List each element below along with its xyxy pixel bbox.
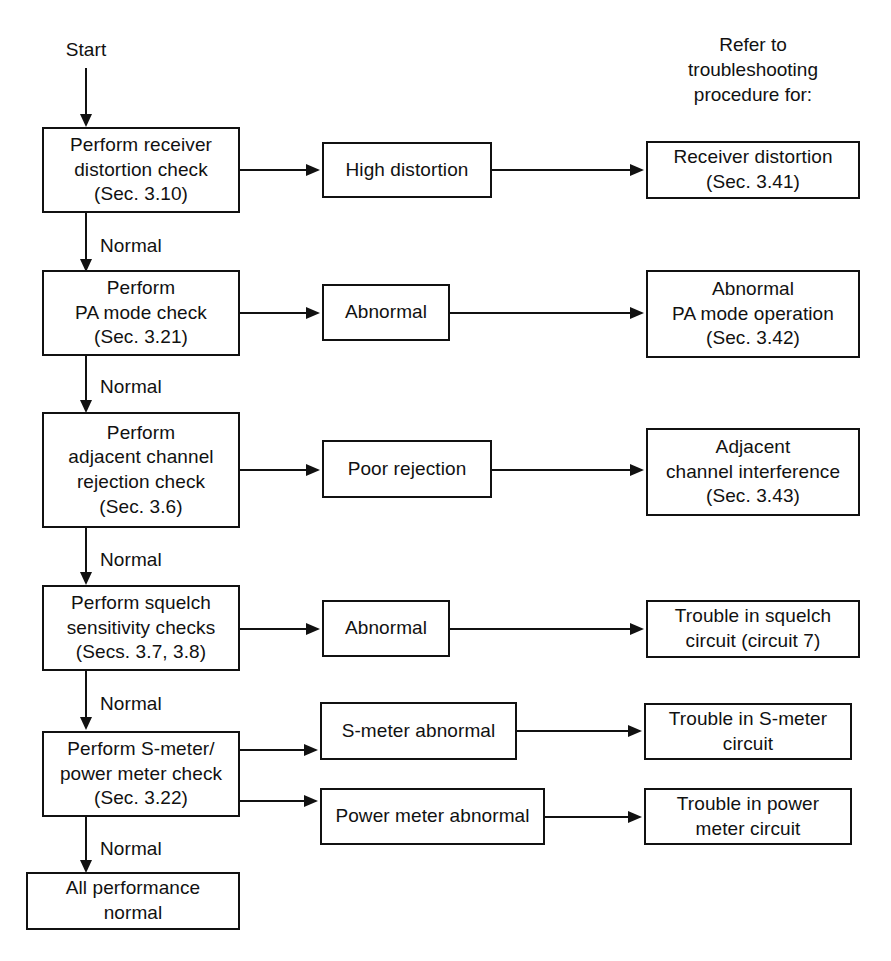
row5-normal-label: Normal bbox=[100, 837, 210, 862]
symptom-box-power-meter-abnormal[interactable]: Power meter abnormal bbox=[320, 788, 545, 845]
row5a-procedure-arrow-head bbox=[628, 725, 642, 737]
symptom-box-poor-rejection[interactable]: Poor rejection bbox=[322, 440, 492, 498]
row3-normal-label: Normal bbox=[100, 548, 210, 573]
row2-normal-line bbox=[85, 356, 87, 404]
check-box-s-meter-power-meter[interactable]: Perform S-meter/ power meter check (Sec.… bbox=[42, 731, 240, 817]
terminal-box-all-performance-normal[interactable]: All performance normal bbox=[26, 872, 240, 930]
row1-fail-line bbox=[240, 169, 308, 171]
row2-procedure-line bbox=[450, 312, 631, 314]
start-label: Start bbox=[36, 38, 136, 63]
row1-fail-arrow-head bbox=[306, 164, 320, 176]
symptom-box-s-meter-abnormal[interactable]: S-meter abnormal bbox=[320, 702, 517, 760]
row3-fail-line bbox=[240, 469, 308, 471]
row3-fail-arrow-head bbox=[306, 464, 320, 476]
row5a-fail-arrow-head bbox=[304, 744, 318, 756]
procedure-box-adjacent-channel-interference[interactable]: Adjacent channel interference (Sec. 3.43… bbox=[646, 428, 860, 516]
row4-fail-arrow-head bbox=[306, 623, 320, 635]
procedure-box-receiver-distortion[interactable]: Receiver distortion (Sec. 3.41) bbox=[646, 141, 860, 199]
row4-normal-arrow-head bbox=[80, 717, 92, 730]
check-box-pa-mode[interactable]: Perform PA mode check (Sec. 3.21) bbox=[42, 270, 240, 356]
check-box-receiver-distortion[interactable]: Perform receiver distortion check (Sec. … bbox=[42, 127, 240, 213]
row3-normal-line bbox=[85, 528, 87, 576]
row4-procedure-arrow-head bbox=[630, 623, 644, 635]
row3-normal-arrow-head bbox=[80, 572, 92, 585]
row1-procedure-line bbox=[492, 169, 631, 171]
row3-procedure-line bbox=[492, 469, 631, 471]
row2-normal-label: Normal bbox=[100, 375, 210, 400]
start-arrow-line bbox=[85, 68, 87, 116]
row2-fail-line bbox=[240, 312, 308, 314]
procedure-box-pa-mode-operation[interactable]: Abnormal PA mode operation (Sec. 3.42) bbox=[646, 270, 860, 358]
procedure-box-power-meter-circuit[interactable]: Trouble in power meter circuit bbox=[644, 788, 852, 845]
row1-normal-line bbox=[85, 213, 87, 261]
row2-procedure-arrow-head bbox=[630, 307, 644, 319]
row1-normal-label: Normal bbox=[100, 234, 210, 259]
procedure-column-header: Refer to troubleshooting procedure for: bbox=[638, 32, 868, 107]
row5b-procedure-line bbox=[545, 816, 629, 818]
row5b-fail-line bbox=[240, 800, 306, 802]
symptom-box-pa-abnormal[interactable]: Abnormal bbox=[322, 284, 450, 341]
symptom-box-high-distortion[interactable]: High distortion bbox=[322, 142, 492, 198]
row5b-procedure-arrow-head bbox=[628, 811, 642, 823]
row4-normal-label: Normal bbox=[100, 692, 210, 717]
row4-fail-line bbox=[240, 628, 308, 630]
check-box-squelch-sensitivity[interactable]: Perform squelch sensitivity checks (Secs… bbox=[42, 585, 240, 671]
row5-normal-line bbox=[85, 817, 87, 865]
procedure-box-s-meter-circuit[interactable]: Trouble in S-meter circuit bbox=[644, 703, 852, 760]
row5a-procedure-line bbox=[517, 730, 629, 732]
row4-normal-line bbox=[85, 671, 87, 719]
row2-fail-arrow-head bbox=[306, 307, 320, 319]
row3-procedure-arrow-head bbox=[630, 464, 644, 476]
check-box-adjacent-channel-rejection[interactable]: Perform adjacent channel rejection check… bbox=[42, 412, 240, 528]
row4-procedure-line bbox=[450, 628, 631, 630]
start-arrow-head bbox=[80, 114, 92, 127]
procedure-box-squelch-circuit[interactable]: Trouble in squelch circuit (circuit 7) bbox=[646, 600, 860, 658]
row5b-fail-arrow-head bbox=[304, 795, 318, 807]
row1-procedure-arrow-head bbox=[630, 164, 644, 176]
symptom-box-squelch-abnormal[interactable]: Abnormal bbox=[322, 600, 450, 657]
flowchart-canvas: Start Refer to troubleshooting procedure… bbox=[0, 0, 891, 961]
row5a-fail-line bbox=[240, 749, 306, 751]
